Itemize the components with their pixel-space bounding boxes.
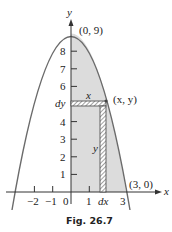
point-label: (x, y) [113,93,137,106]
y-tick-6: 6 [60,80,66,92]
y-tick-3: 3 [60,133,66,145]
parabola-figure: y x 1 2 3 4 dy 6 7 8 −2 −1 0 1 dx 3 (0, … [0,0,172,232]
horizontal-strip-label: x [85,89,91,101]
horizontal-strip [71,101,106,106]
x-tick-1: 1 [86,195,92,207]
x-tick-minus2: −2 [27,195,39,207]
x-tick-0: 0 [63,195,69,207]
point-marker [104,99,107,102]
y-axis-arrow-icon [69,19,74,26]
vertical-strip-label: y [92,142,98,154]
figure-caption: Fig. 26.7 [66,215,113,226]
x-tick-3: 3 [120,195,126,207]
x-tick-minus1: −1 [45,195,57,207]
y-axis-label: y [66,6,72,18]
y-tick-7: 7 [60,63,66,75]
y-tick-2: 2 [60,151,66,163]
y-tick-1: 1 [60,168,66,180]
vertical-strip [100,106,106,192]
y-tick-dy: dy [55,97,66,109]
shaded-region [71,34,126,192]
x-axis-arrow-icon [155,190,162,195]
y-tick-8: 8 [60,45,66,57]
x-tick-dx: dx [98,195,109,207]
x-axis-label: x [163,185,169,197]
x-intercept-label: (3, 0) [129,178,153,191]
vertex-label: (0, 9) [79,24,103,37]
y-tick-4: 4 [60,116,66,128]
